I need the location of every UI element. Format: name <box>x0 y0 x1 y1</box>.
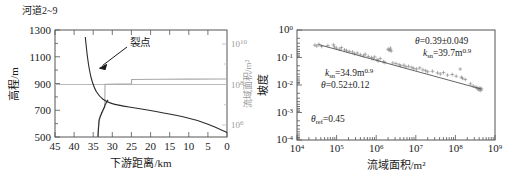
y-tick-right-1e10: 1010 <box>231 38 248 49</box>
y-tick-900: 900 <box>35 78 52 90</box>
y-axis-ticks-right <box>297 30 302 140</box>
svg-text:106: 106 <box>231 119 244 130</box>
x-tick-30: 30 <box>107 140 119 152</box>
annot-theta-mid: θ=0.52±0.12 <box>321 80 370 90</box>
x-tick-20: 20 <box>145 140 157 152</box>
x-tick-1e8: 108 <box>448 142 463 154</box>
y-tick-700: 700 <box>35 104 52 116</box>
knickpoint-arrow <box>100 47 128 70</box>
panel-slope-area: 100 10-1 10-2 10-3 10-4 坡度 <box>255 0 511 177</box>
y-tick-1e-2: 10-2 <box>276 78 293 90</box>
x-tick-1e9: 109 <box>488 142 503 154</box>
drainage-area-curve <box>98 79 227 137</box>
x-axis-ticks-right <box>297 135 495 140</box>
y-tick-1100: 1100 <box>29 51 51 63</box>
annot-ksn-mid: ksn=34.9m0.9 <box>325 67 374 79</box>
y-tick-1300: 1300 <box>29 24 52 36</box>
y-axis-label-right-panel: 坡度 <box>256 74 269 96</box>
tributary-step-curve <box>98 100 108 137</box>
figure-container: 河道2~9 1300 1100 900 700 500 高程/m <box>0 0 511 177</box>
x-tick-45: 45 <box>50 140 62 152</box>
y-axis-right-ticks <box>55 44 227 125</box>
x-tick-1e6: 106 <box>369 142 384 154</box>
panel-longitudinal-profile: 河道2~9 1300 1100 900 700 500 高程/m <box>0 0 256 177</box>
y-axis-left-ticks <box>55 30 60 137</box>
svg-text:1010: 1010 <box>231 38 248 49</box>
annot-theta-upper: θ=0.39±0.049 <box>415 36 468 46</box>
annot-ksn-upper: ksn=39.7m0.9 <box>423 47 472 59</box>
knickpoint-label: 裂点 <box>130 36 150 48</box>
y-tick-1e-1: 10-1 <box>276 51 293 63</box>
x-tick-1e7: 107 <box>409 142 424 154</box>
x-tick-15: 15 <box>164 140 176 152</box>
x-axis-label-left: 下游距离/km <box>110 156 172 169</box>
y-axis-label-right: 流域面积/m² <box>242 60 253 109</box>
annot-theta-ref: θref=0.45 <box>311 114 345 125</box>
x-tick-5: 5 <box>205 140 211 152</box>
x-tick-1e5: 105 <box>329 142 344 154</box>
slope-area-svg: 100 10-1 10-2 10-3 10-4 坡度 <box>255 0 511 177</box>
x-tick-25: 25 <box>126 140 138 152</box>
panel-title-left: 河道2~9 <box>22 4 57 16</box>
x-tick-40: 40 <box>69 140 81 152</box>
x-tick-1e4: 104 <box>290 142 305 154</box>
y-tick-1e0: 100 <box>279 23 294 35</box>
longitudinal-profile-svg: 河道2~9 1300 1100 900 700 500 高程/m <box>0 0 256 177</box>
y-axis-label-left: 高程/m <box>7 67 20 101</box>
x-tick-35: 35 <box>88 140 100 152</box>
y-tick-1e-3: 10-3 <box>276 106 293 118</box>
x-axis-label-right-panel: 流域面积/m² <box>367 158 427 171</box>
x-tick-0: 0 <box>224 140 230 152</box>
y-tick-right-1e6: 106 <box>231 119 244 130</box>
x-tick-10: 10 <box>183 140 195 152</box>
